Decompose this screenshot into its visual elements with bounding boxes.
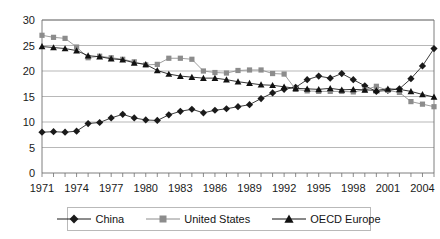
x-axis-tick-label: 1989 xyxy=(237,182,261,194)
x-axis-tick-label: 1995 xyxy=(306,182,330,194)
data-point-marker xyxy=(166,56,171,61)
x-axis-tick-label: 1983 xyxy=(168,182,192,194)
data-point-marker xyxy=(108,114,115,121)
x-axis-tick-label: 1998 xyxy=(341,182,365,194)
data-point-marker xyxy=(51,35,56,40)
data-point-marker xyxy=(131,114,138,121)
y-axis-tick-label: 30 xyxy=(23,14,35,26)
legend-item-united-states[interactable]: United States xyxy=(135,213,261,225)
diamond-marker-icon xyxy=(57,213,91,225)
data-point-marker xyxy=(50,128,57,135)
data-point-marker xyxy=(223,105,230,112)
data-point-marker xyxy=(61,129,68,136)
data-point-marker xyxy=(200,109,207,116)
data-point-marker xyxy=(39,43,46,49)
chart-figure: 0510152025301971197419771980198319861989… xyxy=(0,0,440,239)
data-point-marker xyxy=(188,106,195,113)
data-point-marker xyxy=(142,116,149,123)
data-point-marker xyxy=(431,104,436,109)
data-point-marker xyxy=(39,33,44,38)
y-axis-tick-label: 5 xyxy=(29,142,35,154)
legend-item-label: China xyxy=(95,213,124,225)
data-point-marker xyxy=(234,103,241,110)
data-point-marker xyxy=(408,99,413,104)
data-point-marker xyxy=(350,76,357,83)
data-point-marker xyxy=(177,108,184,115)
data-point-marker xyxy=(304,76,311,83)
x-axis-tick-label: 1992 xyxy=(272,182,296,194)
data-point-marker xyxy=(270,71,275,76)
data-point-marker xyxy=(62,36,67,41)
data-point-marker xyxy=(119,111,126,118)
data-point-marker xyxy=(246,101,253,108)
data-point-marker xyxy=(212,70,217,75)
legend-item-label: OECD Europe xyxy=(310,213,380,225)
data-point-marker xyxy=(155,62,160,67)
x-axis-tick-label: 1971 xyxy=(30,182,54,194)
line-chart-svg: 0510152025301971197419771980198319861989… xyxy=(0,0,440,196)
x-axis-tick-label: 2004 xyxy=(410,182,434,194)
data-point-marker xyxy=(258,67,263,72)
data-point-marker xyxy=(73,128,80,135)
data-point-marker xyxy=(38,129,45,136)
data-point-marker xyxy=(235,68,240,73)
x-axis-tick-label: 1974 xyxy=(64,182,88,194)
data-point-marker xyxy=(315,73,322,80)
x-axis-tick-label: 1986 xyxy=(203,182,227,194)
x-axis-tick-label: 2001 xyxy=(376,182,400,194)
data-point-marker xyxy=(282,71,287,76)
data-point-marker xyxy=(247,67,252,72)
x-axis-tick-label: 1977 xyxy=(99,182,123,194)
y-axis-tick-label: 25 xyxy=(23,40,35,52)
y-axis-tick-label: 10 xyxy=(23,116,35,128)
data-point-marker xyxy=(154,67,161,73)
data-point-marker xyxy=(211,107,218,114)
data-point-marker xyxy=(165,111,172,118)
data-point-marker xyxy=(201,68,206,73)
data-point-marker xyxy=(257,95,264,102)
data-point-marker xyxy=(189,57,194,62)
data-point-marker xyxy=(420,102,425,107)
square-marker-icon xyxy=(146,213,180,225)
data-point-marker xyxy=(178,56,183,61)
triangle-marker-icon xyxy=(272,213,306,225)
x-axis-tick-label: 1980 xyxy=(134,182,158,194)
data-point-marker xyxy=(430,45,437,52)
data-point-marker xyxy=(327,85,334,91)
data-point-marker xyxy=(269,89,276,96)
y-axis-tick-label: 15 xyxy=(23,91,35,103)
data-point-marker xyxy=(224,70,229,75)
legend-item-china[interactable]: China xyxy=(46,213,135,225)
data-point-marker xyxy=(96,119,103,126)
chart-canvas: 0510152025301971197419771980198319861989… xyxy=(0,0,440,239)
legend-item-label: United States xyxy=(184,213,250,225)
y-axis-tick-label: 0 xyxy=(29,167,35,179)
legend-item-oecd-europe[interactable]: OECD Europe xyxy=(261,213,391,225)
data-point-marker xyxy=(327,75,334,82)
data-point-marker xyxy=(154,117,161,124)
y-axis-tick-label: 20 xyxy=(23,65,35,77)
chart-legend: ChinaUnited StatesOECD Europe xyxy=(67,207,371,231)
data-point-marker xyxy=(85,120,92,127)
